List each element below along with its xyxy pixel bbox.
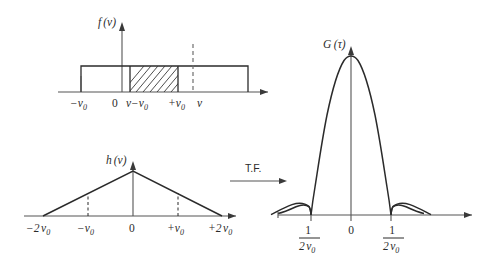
triangle-y-axis-label: h(v) xyxy=(106,154,127,167)
rect-xtick-label-zero: 0 xyxy=(112,97,118,109)
transform-arrow-head xyxy=(279,178,287,184)
triangle-xtick-label-plus-v0: +v0 xyxy=(167,222,184,237)
rect-xtick-label-plus-v0: +v0 xyxy=(168,97,185,112)
transform-label: T.F. xyxy=(245,162,261,174)
triangle-xtick-label-zero: 0 xyxy=(129,222,135,234)
left-frac-numerator: 1 xyxy=(305,224,311,236)
sinc-xtick-label-right-fraction: 1 2v0 xyxy=(383,224,404,255)
triangle-xtick-label-minus-2v0: −2v0 xyxy=(26,222,50,237)
triangle-y-axis-arrowhead xyxy=(130,161,136,170)
rect-x-axis-arrowhead xyxy=(260,89,268,95)
plot-rect-function: f(v) −v0 0 v−v0 +v0 v xyxy=(58,16,268,112)
rect-xtick-label-minus-v0: −v0 xyxy=(70,97,87,112)
rect-xtick-label-v: v xyxy=(197,97,203,109)
right-frac-numerator: 1 xyxy=(389,224,395,236)
sinc-y-axis-arrowhead xyxy=(348,46,354,55)
triangle-x-axis-arrowhead xyxy=(228,213,236,219)
sinc-y-axis-label: G(τ) xyxy=(323,38,346,51)
sinc-xtick-label-zero: 0 xyxy=(348,224,354,236)
plot-sinc-squared: G(τ) 1 2v0 0 1 2v0 xyxy=(271,38,472,255)
sinc-x-axis-arrowhead xyxy=(464,212,472,218)
fourier-transform-figure: f(v) −v0 0 v−v0 +v0 v h(v) xyxy=(0,0,489,264)
plot-triangle-function: h(v) −2v0 −v0 0 +v0 +2v0 xyxy=(24,154,236,237)
rect-xtick-label-v-minus-v0: v−v0 xyxy=(126,97,148,112)
triangle-xtick-label-plus-2v0: +2v0 xyxy=(208,222,232,237)
rect-y-axis-label: f(v) xyxy=(98,16,116,29)
right-frac-denominator: 2v0 xyxy=(383,240,399,255)
triangle-xtick-label-minus-v0: −v0 xyxy=(77,222,94,237)
rect-pulse-outline xyxy=(81,66,248,92)
left-frac-denominator: 2v0 xyxy=(299,240,315,255)
rect-y-axis-arrowhead xyxy=(119,22,125,31)
transform-arrow-group: T.F. xyxy=(230,162,287,184)
sinc-xtick-label-left-fraction: 1 2v0 xyxy=(299,224,320,255)
